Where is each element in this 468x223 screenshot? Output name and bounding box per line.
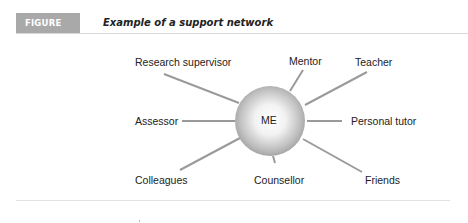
connector-line [305, 72, 367, 105]
node-label: Research supervisor [135, 56, 231, 68]
connector-line [180, 138, 240, 170]
node-label: Friends [365, 174, 400, 186]
node-label: Personal tutor [351, 115, 416, 127]
node-label: Assessor [135, 115, 178, 127]
connector-line [290, 70, 303, 91]
support-network-diagram [0, 0, 468, 223]
connector-line [273, 156, 275, 163]
connector-line [303, 139, 362, 172]
node-label: Mentor [289, 55, 322, 67]
node-label: Counsellor [254, 174, 304, 186]
page-mark [139, 220, 140, 222]
connector-line [164, 74, 239, 103]
node-label: Teacher [355, 56, 392, 68]
center-label-me: ME [261, 114, 277, 126]
bottom-divider [16, 200, 450, 201]
node-label: Colleagues [135, 174, 188, 186]
